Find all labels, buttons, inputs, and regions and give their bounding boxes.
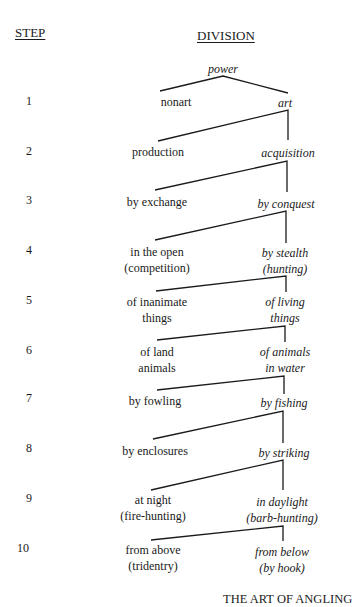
branch-power: [160, 76, 288, 93]
left-division-line-2: (competition): [124, 260, 189, 276]
branch-step-4: [155, 211, 286, 243]
right-division: acquisition: [261, 145, 314, 161]
step-number: 9: [26, 490, 32, 506]
left-division: production: [132, 144, 184, 160]
right-division-line-1: by stealth: [262, 245, 308, 261]
right-division-line-2: (by hook): [259, 560, 305, 576]
step-number: 8: [26, 440, 32, 456]
right-division-line-1: from below: [255, 544, 309, 560]
right-division-line-2: in water: [265, 360, 305, 376]
step-number: 5: [26, 292, 32, 308]
branch-step-8: [153, 411, 283, 443]
root-node: power: [208, 61, 238, 77]
step-number: 7: [26, 390, 32, 406]
left-division: nonart: [161, 94, 192, 110]
left-division-line-1: from above: [126, 542, 181, 558]
right-division: by conquest: [258, 196, 315, 212]
right-division-line-1: of living: [265, 294, 305, 310]
right-division-line-1: of animals: [260, 344, 310, 360]
branch-step-3: [155, 161, 287, 192]
left-division-line-2: animals: [138, 360, 175, 376]
right-division-line-1: in daylight: [256, 494, 308, 510]
branch-step-7: [157, 376, 284, 394]
branch-step-9: [151, 460, 283, 490]
step-number: 4: [26, 242, 32, 258]
left-division-line-2: (fire-hunting): [120, 508, 185, 524]
left-division-line-2: things: [142, 310, 171, 326]
right-division: by fishing: [261, 395, 308, 411]
left-division: by fowling: [129, 393, 181, 409]
right-division-line-2: (barb-hunting): [246, 510, 317, 526]
branch-step-5: [156, 276, 286, 292]
step-number: 1: [26, 93, 32, 109]
left-division-line-1: at night: [135, 492, 171, 508]
left-division-line-1: of land: [140, 344, 174, 360]
right-division-line-2: things: [270, 310, 299, 326]
diagram-caption: THE ART OF ANGLING: [223, 591, 352, 607]
step-number: 3: [26, 192, 32, 208]
left-division: by enclosures: [122, 443, 188, 459]
step-number: 6: [26, 342, 32, 358]
left-division: by exchange: [127, 194, 187, 210]
branch-step-10: [151, 526, 283, 541]
right-division-line-2: (hunting): [263, 261, 308, 277]
step-number: 2: [26, 143, 32, 159]
branch-step-2: [158, 110, 288, 141]
division-column-header: DIVISION: [197, 28, 255, 44]
left-division-line-1: in the open: [130, 244, 183, 260]
right-division: by striking: [259, 445, 310, 461]
right-division: art: [278, 95, 292, 111]
left-division-line-1: of inanimate: [127, 294, 187, 310]
left-division-line-2: (tridentry): [128, 558, 177, 574]
branch-step-6: [157, 326, 285, 342]
step-number: 10: [17, 540, 29, 556]
step-column-header: STEP: [15, 25, 45, 41]
